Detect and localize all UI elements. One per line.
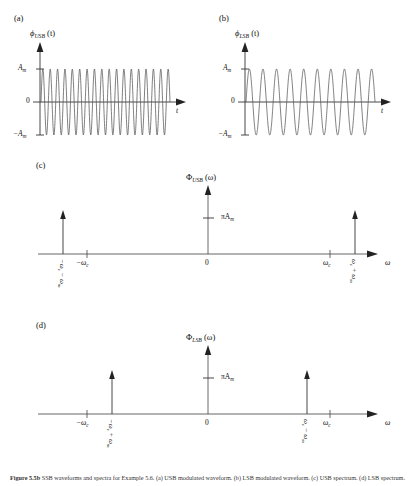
panel-a-x-axis-label: t — [176, 106, 178, 115]
panel-d-plot — [0, 318, 411, 478]
figure-container: (a) ϕUSB (t) Am 0 −Am t (b) — [0, 0, 411, 486]
panel-c-plot — [0, 158, 411, 318]
panel-c-x-axis-label: ω — [385, 258, 390, 267]
panel-b-ytick-bot: −Am — [218, 129, 231, 138]
panel-c-spike-left-label: −ωc − ωm — [58, 259, 66, 287]
panel-b: (b) ϕLSB (t) Am 0 −Am t — [205, 0, 411, 155]
panel-d-spike-left-label: −ωc + ωm — [107, 419, 115, 447]
panel-c-origin-label: 0 — [205, 258, 209, 267]
panel-c-tick-left-label: −ωc — [76, 258, 89, 267]
panel-d-spike-right-label: ωc − ωm — [302, 419, 310, 443]
figure-caption: Figure 5.5b SSB waveforms and spectra fo… — [10, 474, 405, 482]
panel-b-plot — [205, 0, 411, 155]
panel-d-tick-left-label: −ωc — [76, 418, 89, 427]
panel-c: (c) ΦUSB (ω) πAm 0 −ωc — [0, 158, 411, 318]
panel-a-ytick-mid: 0 — [26, 96, 30, 105]
panel-d: (d) ΦLSB (ω) πAm 0 −ωc ωc — [0, 318, 411, 478]
figure-caption-number: Figure 5.5b — [10, 474, 40, 481]
panel-d-origin-label: 0 — [205, 418, 209, 427]
panel-c-amp-label: πAm — [221, 212, 234, 221]
panel-c-tick-right-label: ωc — [323, 258, 331, 267]
panel-a: (a) ϕUSB (t) Am 0 −Am t — [0, 0, 205, 155]
panel-d-amp-label: πAm — [221, 372, 234, 381]
panel-b-ytick-mid: 0 — [231, 96, 235, 105]
panel-a-ytick-bot: −Am — [13, 129, 26, 138]
panel-b-x-axis-label: t — [381, 106, 383, 115]
panel-a-plot — [0, 0, 205, 155]
panel-c-spike-right-label: ωc + ωm — [350, 259, 358, 283]
panel-d-x-axis-label: ω — [385, 418, 390, 427]
panel-b-ytick-top: Am — [223, 63, 231, 72]
panel-a-ytick-top: Am — [18, 63, 26, 72]
panel-d-tick-right-label: ωc — [323, 418, 331, 427]
figure-caption-text: SSB waveforms and spectra for Example 5.… — [42, 474, 405, 481]
